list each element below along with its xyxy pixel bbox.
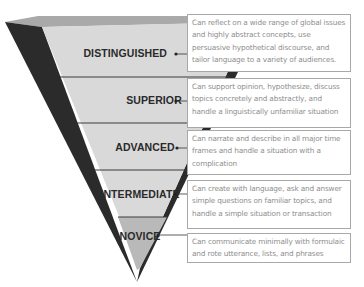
description-box-intermediate: Can create with language, ask and answer… [187, 180, 351, 229]
description-box-novice: Can communicate minimally with formulaic… [187, 233, 351, 263]
connector-novice [156, 233, 188, 236]
level-label-advanced: ADVANCED [115, 141, 175, 153]
connector-intermediate [174, 192, 188, 195]
description-intermediate: Can create with language, ask and answer… [192, 184, 342, 218]
description-box-distinguished: Can reflect on a wide range of global is… [187, 14, 351, 72]
description-advanced: Can narrate and describe in all major ti… [192, 134, 340, 168]
level-label-intermediate: INTERMEDIATE [100, 188, 179, 200]
description-novice: Can communicate minimally with formulaic… [192, 237, 345, 258]
description-box-advanced: Can narrate and describe in all major ti… [187, 130, 351, 175]
novice-band-fill [118, 217, 167, 270]
level-label-distinguished: DISTINGUISHED [83, 47, 167, 59]
level-label-novice: NOVICE [120, 230, 161, 242]
description-superior: Can support opinion, hypothesize, discus… [192, 82, 340, 116]
description-distinguished: Can reflect on a wide range of global is… [192, 18, 345, 64]
level-label-superior: SUPERIOR [126, 94, 182, 106]
description-box-superior: Can support opinion, hypothesize, discus… [187, 78, 351, 128]
